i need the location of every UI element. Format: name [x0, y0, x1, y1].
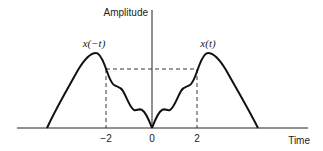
curve-x-t	[152, 53, 258, 128]
curve-label-left: x(−t)	[82, 37, 106, 50]
signal-diagram: Amplitude Time x(−t) x(t) −2 0 2	[0, 0, 323, 151]
y-axis-label: Amplitude	[104, 7, 149, 18]
x-axis-label: Time	[288, 135, 310, 146]
tick-label-0: 0	[149, 133, 155, 144]
curve-x-minus-t	[47, 53, 152, 128]
tick-label-2: 2	[194, 133, 200, 144]
curve-label-right: x(t)	[199, 37, 216, 50]
tick-label-neg2: −2	[100, 133, 112, 144]
